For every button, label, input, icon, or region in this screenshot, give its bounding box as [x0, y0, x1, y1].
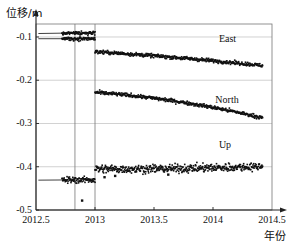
x-axis-title: 年份: [264, 227, 286, 242]
chart-figure: 位移/m 年份 -0.1-0.2-0.3-0.4-0.5 2012.520132…: [0, 0, 290, 242]
series-label-east: East: [219, 33, 236, 44]
x-tick-label: 2013: [73, 214, 117, 225]
y-tick-label: -0.4: [2, 161, 32, 172]
x-tick-label: 2013.5: [132, 214, 176, 225]
series-label-north: North: [215, 94, 238, 105]
y-tick-label: -0.3: [2, 117, 32, 128]
y-axis-title: 位移/m: [6, 4, 42, 20]
chart-canvas: [0, 0, 290, 242]
series-label-up: Up: [219, 139, 231, 150]
y-tick-label: -0.2: [2, 74, 32, 85]
x-tick-label: 2014: [191, 214, 235, 225]
x-tick-label: 2014.5: [250, 214, 290, 225]
x-tick-label: 2012.5: [14, 214, 58, 225]
y-tick-label: -0.1: [2, 31, 32, 42]
